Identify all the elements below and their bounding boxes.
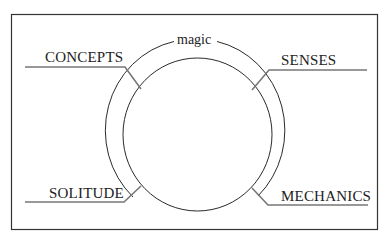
label-mechanics: MECHANICS — [281, 189, 371, 204]
label-solitude: SOLITUDE — [49, 186, 124, 201]
label-senses: SENSES — [281, 53, 336, 68]
inner-circle — [123, 58, 272, 211]
outer-arc-right — [217, 42, 285, 197]
leader-concepts — [25, 67, 141, 89]
leader-senses — [252, 70, 367, 90]
label-magic: magic — [177, 33, 211, 47]
label-concepts: CONCEPTS — [45, 50, 123, 65]
